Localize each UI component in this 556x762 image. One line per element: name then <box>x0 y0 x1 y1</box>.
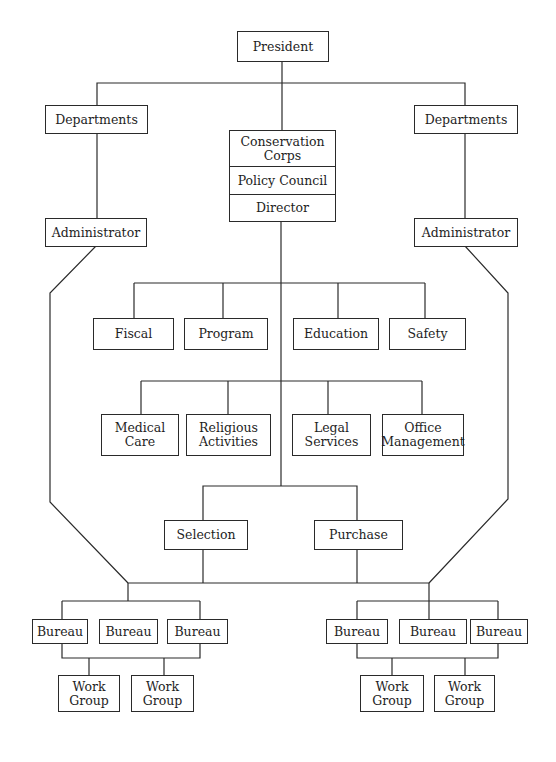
node-bureau-right-2: Bureau <box>399 619 467 644</box>
node-label: Conservation Corps <box>240 135 324 163</box>
node-policy-council: Policy Council <box>230 167 335 195</box>
org-chart: President Departments Departments Admini… <box>0 0 556 762</box>
node-label: Education <box>304 327 368 341</box>
node-label: Bureau <box>105 625 151 639</box>
node-president: President <box>237 31 329 62</box>
node-safety: Safety <box>389 318 466 350</box>
node-label: Policy Council <box>238 174 328 188</box>
node-administrator-right: Administrator <box>414 218 518 247</box>
node-label: Departments <box>55 113 138 127</box>
node-label: Bureau <box>410 625 456 639</box>
node-bureau-left-1: Bureau <box>32 619 88 644</box>
node-conservation-corps-stack: Conservation Corps Policy Council Direct… <box>229 130 336 222</box>
node-religious-activities: Religious Activities <box>186 414 271 456</box>
node-label: Purchase <box>329 528 388 542</box>
node-label: Bureau <box>334 625 380 639</box>
node-label: Bureau <box>476 625 522 639</box>
node-label: Departments <box>425 113 508 127</box>
node-label: Work Group <box>69 680 109 708</box>
node-label: Religious Activities <box>199 421 258 449</box>
node-label: Administrator <box>52 226 140 240</box>
node-label: Work Group <box>143 680 183 708</box>
node-label: Legal Services <box>305 421 359 449</box>
node-program: Program <box>184 318 268 350</box>
node-label: Work Group <box>372 680 412 708</box>
node-label: Medical Care <box>115 421 166 449</box>
node-conservation-corps: Conservation Corps <box>230 131 335 167</box>
node-selection: Selection <box>164 520 248 550</box>
node-label: Safety <box>407 327 447 341</box>
node-purchase: Purchase <box>314 520 403 550</box>
node-administrator-left: Administrator <box>45 218 147 247</box>
node-bureau-right-3: Bureau <box>470 619 528 644</box>
node-bureau-left-3: Bureau <box>167 619 228 644</box>
node-office-management: Office Management <box>382 414 464 456</box>
node-label: Bureau <box>174 625 220 639</box>
node-legal-services: Legal Services <box>292 414 371 456</box>
node-director: Director <box>230 195 335 221</box>
node-work-group-left-2: Work Group <box>131 675 194 712</box>
node-label: Administrator <box>422 226 510 240</box>
node-bureau-left-2: Bureau <box>99 619 158 644</box>
node-label: Office Management <box>381 421 464 449</box>
node-education: Education <box>293 318 379 350</box>
node-label: Program <box>198 327 253 341</box>
node-label: Director <box>256 201 309 215</box>
node-departments-right: Departments <box>414 105 518 134</box>
node-work-group-right-2: Work Group <box>434 675 495 712</box>
node-label: President <box>253 40 314 54</box>
node-bureau-right-1: Bureau <box>326 619 388 644</box>
node-medical-care: Medical Care <box>101 414 179 456</box>
node-label: Selection <box>177 528 236 542</box>
node-fiscal: Fiscal <box>93 318 174 350</box>
node-work-group-right-1: Work Group <box>360 675 424 712</box>
node-label: Work Group <box>445 680 485 708</box>
node-work-group-left-1: Work Group <box>58 675 120 712</box>
node-departments-left: Departments <box>45 105 148 134</box>
node-label: Bureau <box>37 625 83 639</box>
node-label: Fiscal <box>115 327 153 341</box>
